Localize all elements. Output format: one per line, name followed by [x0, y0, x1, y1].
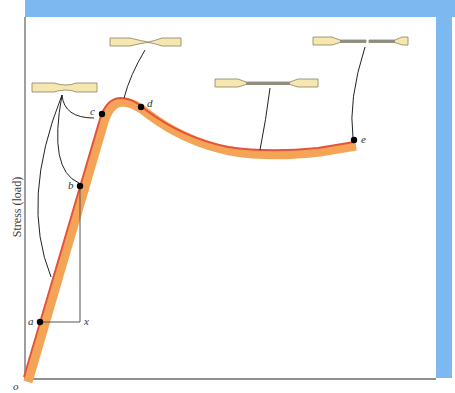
point-a-label: a [28, 316, 34, 327]
drawn-specimen-icon [215, 79, 318, 87]
leader-line-fracture [352, 47, 365, 138]
point-b-label: b [68, 180, 74, 191]
y-axis-label: Stress (load) [10, 162, 24, 252]
leader-line-peak [124, 50, 145, 98]
origin-label: o [13, 381, 19, 392]
stress-curve-band [28, 102, 356, 382]
point-a [37, 319, 43, 325]
bracket-x-label: x [84, 316, 89, 327]
stress-strain-diagram [0, 0, 455, 393]
point-b [77, 183, 83, 189]
fractured-specimen-icon [313, 37, 408, 45]
point-d-label: d [147, 98, 153, 109]
leader-line-drawn [260, 88, 270, 150]
leader-line-b [58, 95, 79, 183]
point-c [99, 111, 105, 117]
point-e-label: e [361, 134, 366, 145]
point-c-label: c [90, 106, 95, 117]
point-e [351, 137, 357, 143]
elastic-specimen-icon [32, 83, 97, 92]
necking-specimen-icon [110, 38, 181, 46]
point-d [138, 104, 144, 110]
